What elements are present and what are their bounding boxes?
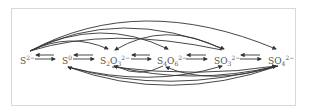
species-sulfite: SO32− <box>214 53 240 69</box>
reversible-arrow-s2o3-s4o6 <box>131 55 151 59</box>
arc-s2o3-from-so4 <box>114 66 278 76</box>
reversible-arrow-s2-s0 <box>35 55 55 59</box>
arc-so3-to-s2o3 <box>115 35 222 50</box>
species-sulfate: SO42− <box>268 53 294 69</box>
species-thiosulfate: S2O32− <box>100 53 130 69</box>
species-elemental-sulfur: S0 <box>62 53 72 66</box>
reversible-arrow-s0-s2o3 <box>73 55 94 59</box>
reversible-arrow-so3-so4 <box>240 55 261 59</box>
reversible-arrow-s4o6-so3 <box>186 55 207 59</box>
reaction-arrows <box>0 0 309 111</box>
species-sulfide: S2− <box>20 53 35 66</box>
species-tetrathionate: S4O62− <box>157 53 187 69</box>
